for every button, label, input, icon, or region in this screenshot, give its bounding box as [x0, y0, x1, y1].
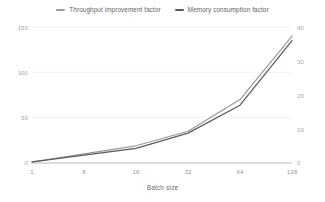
y-left-tick-50: 50: [4, 114, 28, 121]
y-left-tick-100: 100: [4, 69, 28, 76]
y-right-tick-10: 10: [297, 126, 321, 133]
legend-label-memory: Memory consumption factor: [188, 6, 269, 13]
y-right-tick-30: 30: [297, 58, 321, 65]
x-tick-8: 8: [69, 168, 99, 175]
legend-item-throughput: Throughput improvement factor: [56, 6, 161, 13]
chart-container: Throughput improvement factor Memory con…: [0, 0, 325, 202]
legend-item-memory: Memory consumption factor: [175, 6, 269, 13]
x-tick-16: 16: [121, 168, 151, 175]
legend-swatch-throughput-icon: [56, 9, 65, 11]
series-line-memory: [32, 41, 292, 162]
x-tick-128: 128: [277, 168, 307, 175]
x-axis-title: Batch size: [0, 184, 325, 191]
y-right-tick-0: 0: [297, 159, 321, 166]
chart-svg: [32, 27, 292, 163]
gridlines: [32, 27, 292, 118]
y-right-tick-20: 20: [297, 92, 321, 99]
y-left-tick-0: 0: [4, 159, 28, 166]
series-line-throughput: [32, 36, 292, 162]
chart-legend: Throughput improvement factor Memory con…: [0, 6, 325, 13]
plot-area: [32, 27, 292, 163]
y-right-tick-40: 40: [297, 24, 321, 31]
legend-label-throughput: Throughput improvement factor: [69, 6, 161, 13]
x-tick-32: 32: [173, 168, 203, 175]
y-left-tick-150: 150: [4, 24, 28, 31]
x-tick-1: 1: [17, 168, 47, 175]
legend-swatch-memory-icon: [175, 9, 184, 11]
x-tick-64: 64: [225, 168, 255, 175]
